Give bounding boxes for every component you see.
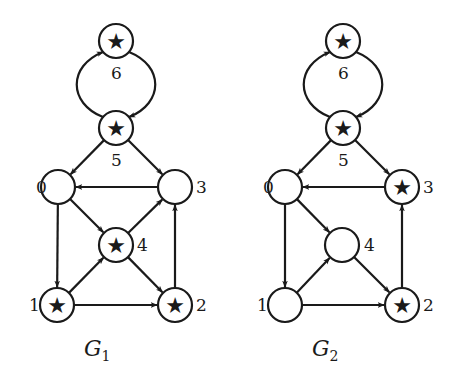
star-icon: ★ <box>333 116 353 141</box>
node-circle <box>268 288 302 322</box>
caption-g1: G1 <box>84 336 111 364</box>
caption-g2: G2 <box>312 336 339 364</box>
node-g1-5: ★5 <box>99 111 133 170</box>
edge-g1-1-to-4 <box>69 258 103 293</box>
star-icon: ★ <box>47 293 67 318</box>
star-icon: ★ <box>165 293 185 318</box>
edge-g1-6-to-5 <box>129 52 155 117</box>
node-label: 0 <box>263 177 274 197</box>
edge-g2-5-to-0 <box>298 140 331 174</box>
edge-g1-5-to-6 <box>77 52 103 117</box>
node-label: 2 <box>196 295 207 315</box>
node-g2-0: 0 <box>263 170 302 204</box>
node-g1-3: 3 <box>158 170 207 204</box>
star-icon: ★ <box>392 175 412 200</box>
node-g2-1: 1 <box>257 288 302 322</box>
node-label: 1 <box>257 295 268 315</box>
edge-g1-5-to-3 <box>128 140 162 174</box>
node-label: 3 <box>196 177 207 197</box>
graph-diagram: 0★1★23★4★5★601★2★34★5★6 G1G2 <box>0 0 460 369</box>
edge-g1-4-to-2 <box>128 257 162 292</box>
edge-g2-4-to-2 <box>354 257 389 292</box>
star-icon: ★ <box>106 29 126 54</box>
node-label: 2 <box>423 295 434 315</box>
node-label: 1 <box>29 295 40 315</box>
node-label: 6 <box>338 63 349 83</box>
node-g1-1: ★1 <box>29 288 74 322</box>
node-g2-6: ★6 <box>326 24 360 83</box>
node-label: 0 <box>36 177 47 197</box>
diagram-canvas: 0★1★23★4★5★601★2★34★5★6 G1G2 <box>0 0 460 369</box>
node-g2-5: ★5 <box>326 111 360 170</box>
edge-g1-4-to-3 <box>128 200 162 233</box>
star-icon: ★ <box>333 29 353 54</box>
node-g2-2: ★2 <box>385 288 434 322</box>
captions-layer: G1G2 <box>84 336 339 364</box>
node-label: 4 <box>364 235 375 255</box>
edge-g1-0-to-4 <box>70 199 103 232</box>
edge-g2-5-to-3 <box>355 140 389 174</box>
node-label: 5 <box>111 150 122 170</box>
node-g1-0: 0 <box>36 170 75 204</box>
edge-g1-0-to-1 <box>57 204 58 287</box>
node-label: 6 <box>111 63 122 83</box>
edge-g1-5-to-0 <box>71 140 104 174</box>
node-g1-2: ★2 <box>158 288 207 322</box>
node-label: 3 <box>423 177 434 197</box>
node-circle <box>325 228 359 262</box>
node-circle <box>158 170 192 204</box>
edges-layer <box>57 52 402 305</box>
star-icon: ★ <box>106 116 126 141</box>
node-g2-3: ★3 <box>385 170 434 204</box>
node-g2-4: 4 <box>325 228 375 262</box>
star-icon: ★ <box>392 293 412 318</box>
star-icon: ★ <box>106 233 126 258</box>
node-label: 4 <box>137 235 148 255</box>
edge-g2-5-to-6 <box>304 52 330 117</box>
edge-g2-6-to-5 <box>356 52 382 117</box>
edge-g2-1-to-4 <box>297 258 330 293</box>
node-g1-6: ★6 <box>99 24 133 83</box>
node-label: 5 <box>338 150 349 170</box>
edge-g2-0-to-4 <box>297 199 329 232</box>
node-g1-4: ★4 <box>99 228 148 262</box>
